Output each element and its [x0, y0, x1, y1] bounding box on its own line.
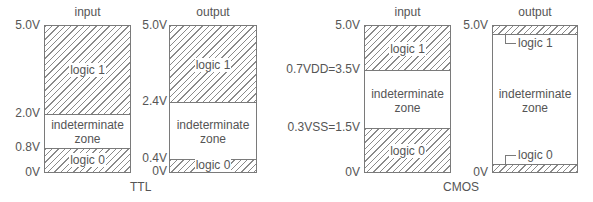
ttl-input-indeterminate-label: indeterminate — [45, 118, 130, 132]
cmos-output-logic1-region — [493, 26, 577, 34]
ttl-output-tick-0v: 0V — [152, 164, 167, 178]
cmos-input-tick-0v: 0V — [345, 165, 360, 179]
cmos-output-title: output — [492, 5, 578, 19]
ttl-output-indeterminate-label: indeterminate — [170, 118, 256, 132]
cmos-input-logic0-label: logic 0 — [389, 144, 426, 158]
ttl-output-title: output — [169, 5, 257, 19]
cmos-input-tick-5v: 5.0V — [335, 18, 360, 32]
ttl-input-tick-0v: 0V — [25, 165, 40, 179]
ttl-input-tick-5v: 5.0V — [15, 18, 40, 32]
ttl-group-label: TTL — [130, 180, 151, 194]
ttl-input-box: logic 1 indeterminate zone logic 0 — [44, 25, 131, 173]
cmos-input-tick-35v: 0.7VDD=3.5V — [286, 62, 360, 76]
cmos-output-tick-5v: 5.0V — [463, 18, 488, 32]
ttl-input-logic1-label: logic 1 — [69, 63, 106, 77]
cmos-input-box: logic 1 indeterminate zone logic 0 — [364, 25, 451, 173]
ttl-output-tick-5v: 5.0V — [142, 18, 167, 32]
ttl-input-logic0-label: logic 0 — [69, 153, 106, 167]
ttl-output-logic0-label: logic 0 — [195, 158, 232, 172]
ttl-output-zone-label: zone — [170, 132, 256, 146]
cmos-output-zone-label: zone — [493, 101, 577, 115]
cmos-output-logic0-region — [493, 165, 577, 172]
ttl-input-zone-label: zone — [45, 132, 130, 146]
ttl-input-tick-08v: 0.8V — [15, 140, 40, 154]
cmos-input-zone-label: zone — [365, 101, 450, 115]
cmos-input-tick-15v: 0.3VSS=1.5V — [288, 120, 360, 134]
ttl-input-title: input — [44, 5, 131, 19]
ttl-output-box: logic 1 indeterminate zone logic 0 — [169, 25, 257, 173]
cmos-output-logic1-leader — [505, 34, 516, 44]
cmos-input-logic1-label: logic 1 — [389, 42, 426, 56]
ttl-output-tick-04v: 0.4V — [142, 151, 167, 165]
ttl-input-tick-2v: 2.0V — [15, 106, 40, 120]
cmos-group-label: CMOS — [443, 180, 479, 194]
cmos-output-logic0-label: logic 0 — [518, 148, 553, 162]
cmos-input-title: input — [364, 5, 451, 19]
cmos-output-logic1-label: logic 1 — [518, 36, 553, 50]
cmos-output-tick-0v: 0V — [473, 165, 488, 179]
cmos-output-logic0-leader — [505, 155, 516, 165]
cmos-input-indeterminate-label: indeterminate — [365, 87, 450, 101]
cmos-output-indeterminate-label: indeterminate — [493, 87, 577, 101]
ttl-output-tick-24v: 2.4V — [142, 94, 167, 108]
ttl-output-logic1-label: logic 1 — [195, 58, 232, 72]
